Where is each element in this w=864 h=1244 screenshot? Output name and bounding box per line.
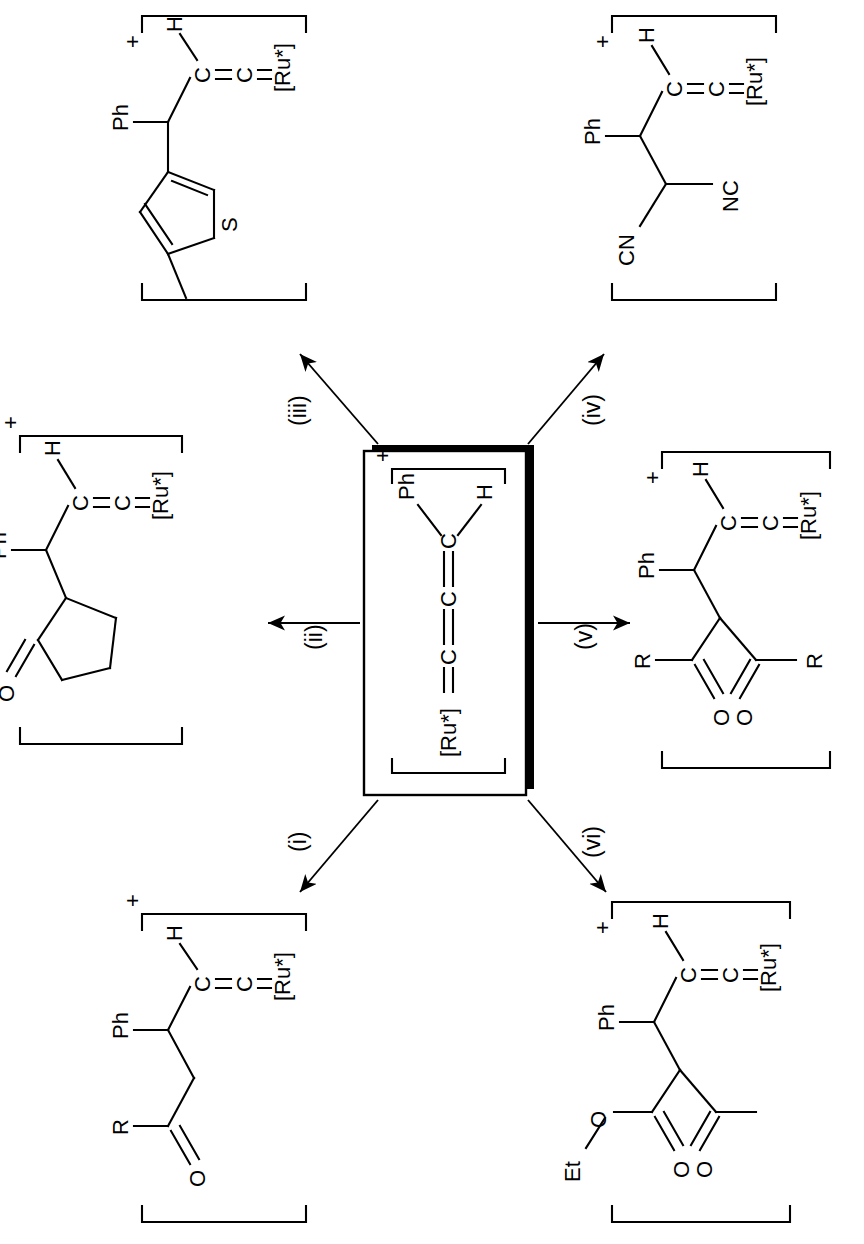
product-iii-hydrogen: H: [162, 16, 187, 32]
center-hydrogen-label: H: [472, 484, 497, 500]
product-iii-sulfur: S: [217, 217, 242, 232]
product-ii-charge: +: [0, 416, 23, 429]
product-v-c2: C: [758, 515, 783, 531]
product-iv-nitrile-bottom: NC: [718, 180, 743, 212]
center-c2-label: C: [436, 591, 461, 607]
product-v-hydrogen: H: [688, 461, 713, 477]
product-iv-c2: C: [704, 81, 729, 97]
product-iv-charge: +: [590, 35, 615, 48]
product-i-phenyl: Ph: [108, 1012, 133, 1039]
center-metal-label: [Ru*]: [436, 708, 461, 757]
product-iii-c1: C: [190, 67, 215, 83]
product-iv-metal: [Ru*]: [742, 57, 767, 106]
product-iv-nitrile-top: CN: [614, 234, 639, 266]
product-iii-metal: [Ru*]: [270, 43, 295, 92]
product-ii-phenyl: Ph: [0, 532, 11, 559]
product-v-metal: [Ru*]: [796, 491, 821, 540]
product-i-c1: C: [190, 976, 215, 992]
product-ii-c1: C: [68, 495, 93, 511]
caption-clip: Scheme 1. [Ru*] = Ru(C5H5)(PPh3)2, react…: [842, 0, 864, 1244]
center-charge: +: [370, 449, 395, 462]
center-c1-label: C: [436, 649, 461, 665]
product-vi-carbonyl-o-bottom: O: [692, 1161, 717, 1178]
product-iii-phenyl: Ph: [108, 104, 133, 131]
product-vi-hydrogen: H: [648, 913, 673, 929]
arrow-iv-label: (iv): [579, 394, 605, 426]
arrow-v-label: (v): [571, 623, 597, 650]
product-v-phenyl: Ph: [634, 552, 659, 579]
product-ii-c2: C: [110, 495, 135, 511]
product-v-carbonyl-o-bottom: O: [732, 709, 757, 726]
product-vi-c1: C: [676, 967, 701, 983]
product-iii-c2: C: [232, 67, 257, 83]
product-iii-charge: +: [120, 35, 145, 48]
product-vi-carbonyl-o-top: O: [669, 1161, 694, 1178]
product-vi-ethyl: Et: [560, 1161, 585, 1182]
product-i-hydrogen: H: [162, 925, 187, 941]
product-v-charge: +: [640, 471, 665, 484]
product-v-c1: C: [716, 515, 741, 531]
product-iv-c1: C: [662, 81, 687, 97]
product-vi-phenyl: Ph: [594, 1004, 619, 1031]
arrow-i-label: (i): [285, 832, 311, 852]
product-i-carbonyl-o: O: [185, 1170, 210, 1187]
arrow-ii-label: (ii): [301, 624, 327, 650]
product-i-acyl-r: R: [108, 1119, 133, 1135]
product-iv-phenyl: Ph: [580, 118, 605, 145]
center-allenylidene-box: + [Ru*] C C C Ph H: [364, 445, 534, 795]
product-vi-c2: C: [718, 967, 743, 983]
figure-page: .bl{stroke:#000;stroke-width:2.1;fill:no…: [0, 0, 864, 1244]
product-vi-charge: +: [590, 921, 615, 934]
product-vi-metal: [Ru*]: [756, 943, 781, 992]
product-ii-carbonyl-o: O: [0, 685, 19, 702]
product-iv-hydrogen: H: [634, 27, 659, 43]
product-i-metal: [Ru*]: [270, 952, 295, 1001]
arrow-vi-label: (vi): [579, 826, 605, 858]
product-ii-metal: [Ru*]: [148, 471, 173, 520]
product-i-c2: C: [232, 976, 257, 992]
product-ii-hydrogen: H: [40, 440, 65, 456]
scheme-canvas: .bl{stroke:#000;stroke-width:2.1;fill:no…: [0, 0, 864, 1244]
product-v-acyl-r-bottom: R: [802, 653, 827, 669]
product-v-carbonyl-o-top: O: [709, 709, 734, 726]
product-vi-ester-o: O: [586, 1111, 611, 1128]
product-i-charge: +: [120, 894, 145, 907]
center-phenyl-label: Ph: [394, 473, 419, 500]
arrow-iii-label: (iii): [285, 395, 311, 426]
product-v-acyl-r-top: R: [630, 653, 655, 669]
